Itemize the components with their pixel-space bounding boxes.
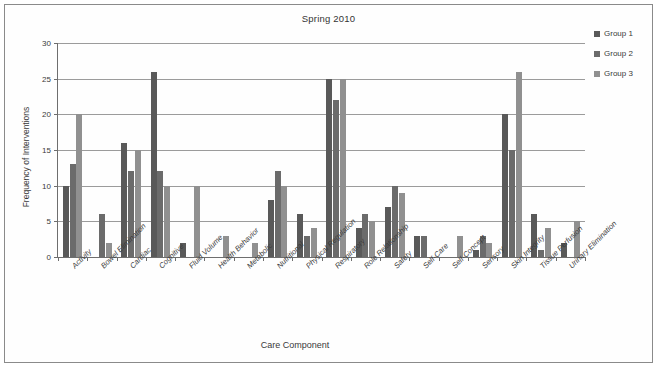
bar[interactable] <box>414 236 420 257</box>
bar[interactable] <box>70 164 76 257</box>
bar-group <box>146 43 175 257</box>
bar[interactable] <box>502 114 508 257</box>
x-axis-labels: ActivityBowel EliminationCardiacCognitiv… <box>57 262 585 332</box>
bar-group <box>439 43 468 257</box>
bar[interactable] <box>326 79 332 257</box>
bar[interactable] <box>164 186 170 257</box>
bar-group <box>527 43 556 257</box>
y-tick-mark <box>54 150 57 151</box>
bar-group <box>87 43 116 257</box>
bar-group <box>204 43 233 257</box>
y-axis-title: Frequency of Interventions <box>21 87 31 227</box>
y-tick-mark <box>54 79 57 80</box>
bar[interactable] <box>76 114 82 257</box>
bar[interactable] <box>538 250 544 257</box>
y-tick-mark <box>54 186 57 187</box>
y-tick-mark <box>54 221 57 222</box>
bar-group <box>409 43 438 257</box>
bar[interactable] <box>63 186 69 257</box>
bar[interactable] <box>362 214 368 257</box>
bar[interactable] <box>99 214 105 257</box>
bar-group <box>556 43 585 257</box>
bar[interactable] <box>509 150 515 257</box>
y-tick-label: 15 <box>42 146 51 155</box>
bar-group <box>468 43 497 257</box>
bar-group <box>234 43 263 257</box>
y-tick-label: 0 <box>47 253 51 262</box>
bar[interactable] <box>194 186 200 257</box>
plot-wrapper: Frequency of Interventions Care Componen… <box>0 0 657 367</box>
y-tick-label: 20 <box>42 110 51 119</box>
chart-screenshot: Spring 2010 Group 1Group 2Group 3 Freque… <box>0 0 657 367</box>
y-tick-mark <box>54 114 57 115</box>
bar-group <box>292 43 321 257</box>
y-tick-label: 10 <box>42 181 51 190</box>
bar[interactable] <box>421 236 427 257</box>
bar-group <box>175 43 204 257</box>
x-axis-title: Care Component <box>60 340 530 350</box>
y-tick-label: 30 <box>42 39 51 48</box>
y-tick-label: 25 <box>42 74 51 83</box>
y-tick-mark <box>54 43 57 44</box>
bar[interactable] <box>392 186 398 257</box>
bar[interactable] <box>516 72 522 257</box>
bar[interactable] <box>135 150 141 257</box>
bar[interactable] <box>275 171 281 257</box>
y-tick-mark <box>54 257 57 258</box>
y-tick-label: 5 <box>47 217 51 226</box>
x-tick-mark <box>58 257 59 261</box>
bar-group <box>263 43 292 257</box>
bar[interactable] <box>157 171 163 257</box>
bar[interactable] <box>151 72 157 257</box>
bar-group <box>497 43 526 257</box>
bar[interactable] <box>281 186 287 257</box>
bar-group <box>58 43 87 257</box>
